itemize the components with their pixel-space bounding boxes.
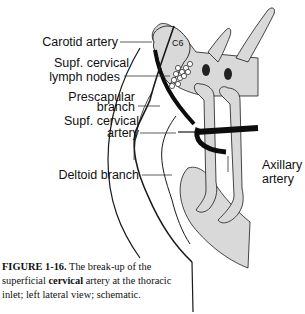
figure-caption: FIGURE 1-16. The break-up of the superfi…: [2, 260, 180, 302]
articular-shadow-1: [202, 64, 210, 76]
label-axillary-1: Axillary: [262, 158, 302, 172]
descending-vessel: [192, 262, 193, 312]
anatomical-figure: Carotid artery Supf. cervical lymph node…: [0, 0, 305, 314]
label-deltoid-branch: Deltoid branch: [2, 168, 139, 182]
label-supf-cervical-artery-2: artery: [2, 126, 139, 140]
axillary-artery: [196, 128, 258, 132]
spinous-process-2: [236, 8, 275, 62]
label-supf-cervical-lymph-1: Supf. cervical: [2, 56, 129, 70]
label-c6: C6: [172, 38, 184, 48]
articular-shadow-2: [224, 68, 232, 80]
label-axillary-2: artery: [262, 172, 294, 186]
label-supf-cervical-lymph-2: lymph nodes: [2, 70, 120, 84]
label-prescapular-2: branch: [2, 100, 135, 114]
figure-number: FIGURE 1-16.: [2, 261, 67, 272]
label-carotid-artery: Carotid artery: [2, 35, 118, 49]
caption-bold-word: cervical: [48, 275, 83, 286]
